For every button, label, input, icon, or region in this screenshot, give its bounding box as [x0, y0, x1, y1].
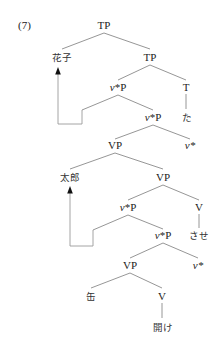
node-vstar-2: v*: [193, 259, 204, 271]
arrowhead-icon: [55, 67, 61, 75]
node-ake: 開け: [153, 322, 173, 333]
tree-nodes: TP 花子 TP v*P T v*P た VP v* 太郎 VP v*P V v…: [52, 19, 209, 333]
node-v-2: V: [158, 290, 166, 302]
node-vp-1: VP: [108, 139, 122, 151]
node-vstar-p-2: v*P: [145, 111, 162, 123]
tree-edges: [62, 33, 199, 318]
node-taro: 太郎: [60, 172, 80, 183]
arrowhead-icon: [67, 186, 73, 194]
node-sase: させ: [189, 230, 209, 241]
example-number: (7): [18, 19, 31, 32]
node-vp-2: VP: [156, 171, 170, 183]
node-tp-root: TP: [98, 19, 111, 31]
node-t: T: [183, 81, 190, 93]
node-vstar-p-4: v*P: [155, 229, 172, 241]
node-v-1: V: [195, 201, 203, 213]
node-vstar-1: v*: [185, 139, 196, 151]
syntax-tree: (7) TP 花子 TP v*P T v*P: [0, 0, 221, 348]
node-kan: 缶: [86, 291, 96, 302]
node-vstar-p-1: v*P: [110, 81, 127, 93]
movement-arrow-taro: [70, 193, 93, 246]
movement-arrows: [55, 67, 93, 246]
node-vstar-p-3: v*P: [120, 201, 137, 213]
movement-arrow-hanako: [58, 74, 82, 124]
node-vp-3: VP: [123, 259, 137, 271]
node-ta: た: [182, 112, 192, 123]
node-tp: TP: [144, 51, 157, 63]
node-hanako: 花子: [52, 52, 72, 63]
